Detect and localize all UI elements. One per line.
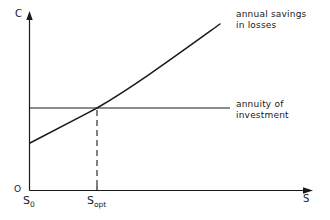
annuity-annotation-line2: investment: [236, 110, 289, 121]
x-tick-label-sopt: Sopt: [87, 195, 106, 207]
annual-savings-annotation-line2: in losses: [236, 20, 306, 31]
annual-savings-annotation: annual savings in losses: [236, 9, 306, 31]
y-axis-label: C: [15, 8, 22, 19]
cost-vs-investment-chart: C S O S0 Sopt annual savings in losses a…: [0, 0, 330, 220]
x-tick-label-s0: S0: [23, 195, 35, 207]
x-tick-label-s0-subscript: 0: [30, 200, 35, 209]
x-tick-label-sopt-subscript: opt: [94, 200, 106, 209]
x-tick-label-s0-base: S: [23, 194, 30, 207]
annuity-annotation-line1: annuity of: [236, 99, 284, 109]
annual-savings-annotation-line1: annual savings: [236, 9, 306, 19]
annuity-annotation: annuity of investment: [236, 99, 289, 121]
x-tick-label-sopt-base: S: [87, 194, 94, 207]
origin-label: O: [14, 184, 21, 195]
annual-savings-curve: [30, 24, 220, 143]
x-axis-label: S: [303, 193, 309, 204]
y-axis-arrow-icon: [26, 11, 32, 20]
